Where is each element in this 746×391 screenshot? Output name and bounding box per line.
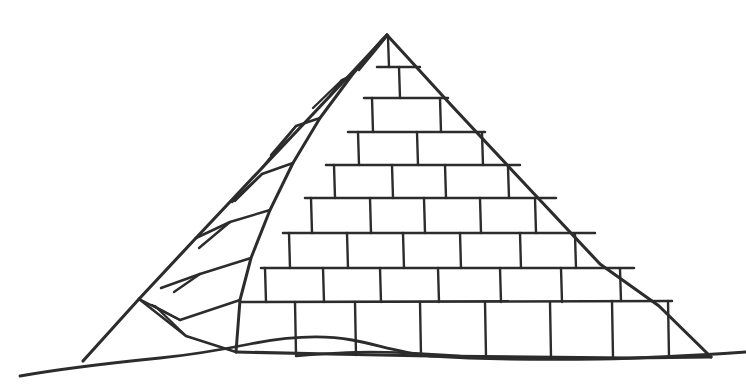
front-joint-r4-c3 (482, 133, 483, 165)
front-joint-r8-c6 (561, 268, 562, 302)
front-face-course-lines (240, 67, 672, 302)
front-joint-r8-c2 (323, 268, 324, 302)
front-joint-r4-c2 (417, 132, 418, 165)
front-joint-r5-c4 (508, 167, 509, 198)
front-course-line-8 (240, 301, 672, 302)
central-ridge-edge (236, 35, 387, 352)
front-joint-r7-c5 (520, 233, 521, 268)
side-joint-r3-c1 (271, 126, 296, 155)
front-joint-r7-c1 (289, 233, 290, 268)
side-joint-r4-c1 (235, 174, 262, 201)
front-joint-r5-c2 (392, 165, 393, 198)
front-joint-r9-c5 (550, 302, 551, 357)
pyramid-illustration: Line drawing of a stepped stone pyramid … (0, 0, 746, 391)
front-joint-r8-c5 (500, 268, 501, 302)
front-joint-r6-c1 (311, 198, 312, 233)
front-joint-r6-c2 (370, 198, 371, 233)
front-joint-r9-c1 (295, 302, 296, 354)
pyramid-drawing-canvas (0, 0, 746, 391)
front-joint-r1-c1 (388, 38, 389, 67)
front-joint-r8-c4 (438, 268, 439, 302)
front-joint-r7-c3 (403, 233, 404, 268)
front-joint-r5-c3 (445, 165, 446, 198)
front-joint-r7-c6 (575, 235, 576, 268)
front-joint-r3-c2 (440, 98, 441, 132)
front-joint-r9-c7 (668, 301, 669, 357)
front-joint-r6-c4 (480, 198, 481, 233)
front-joint-r3-c1 (372, 98, 373, 132)
front-joint-r4-c1 (358, 132, 359, 165)
front-joint-r6-c5 (535, 198, 536, 233)
front-joint-r8-c7 (620, 269, 621, 301)
front-joint-r9-c2 (355, 302, 356, 355)
front-joint-r2-c1 (399, 67, 400, 98)
front-joint-r6-c3 (424, 198, 425, 233)
side-joint-r7-c2 (155, 306, 186, 336)
front-joint-r9-c3 (420, 302, 421, 356)
front-joint-r8-c3 (380, 268, 381, 302)
side-face-joint-lines (152, 80, 342, 336)
front-joint-r9-c4 (485, 302, 486, 356)
front-joint-r5-c1 (334, 165, 335, 198)
front-joint-r7-c4 (460, 233, 461, 268)
front-joint-r7-c2 (347, 233, 348, 268)
apex-sliver-edge (359, 36, 387, 70)
front-joint-r8-c1 (265, 268, 266, 302)
front-joint-r9-c6 (612, 301, 613, 357)
